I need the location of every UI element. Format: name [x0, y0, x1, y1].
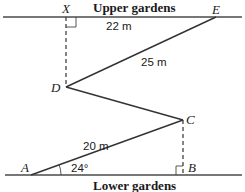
measurement-ac: 20 m [83, 140, 109, 152]
point-label-b: B [188, 160, 196, 175]
point-label-c: C [186, 112, 195, 127]
angle-arc-a [59, 165, 61, 175]
measurement-angle-a: 24° [71, 162, 88, 174]
measurement-xe: 22 m [106, 20, 132, 32]
path-segment-dc [66, 87, 183, 120]
point-label-a: A [20, 160, 29, 175]
right-angle-marker-b [176, 166, 183, 175]
point-label-x: X [61, 1, 71, 16]
lower-gardens-label: Lower gardens [93, 178, 176, 192]
right-angle-marker-x [66, 17, 76, 27]
point-label-e: E [211, 2, 220, 17]
measurement-de: 25 m [141, 56, 167, 68]
upper-gardens-label: Upper gardens [93, 0, 175, 15]
point-label-d: D [50, 80, 61, 95]
garden-path-diagram: Upper gardens Lower gardens X E D C A B … [0, 0, 245, 192]
path-segment-de [66, 17, 216, 87]
